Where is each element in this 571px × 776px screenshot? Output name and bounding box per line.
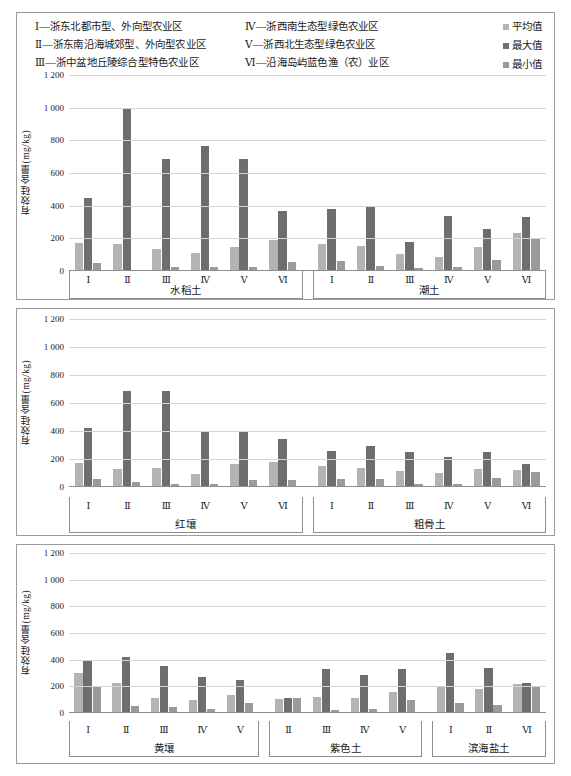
x-tick-label: Ⅵ bbox=[278, 500, 288, 511]
bar bbox=[191, 474, 199, 487]
bar bbox=[230, 464, 238, 487]
category-legend-item: Ⅵ—沿海岛屿蓝色渔（农）业区 bbox=[245, 55, 425, 71]
x-tick-label: Ⅰ bbox=[330, 500, 334, 511]
bar bbox=[269, 240, 277, 271]
bar bbox=[123, 108, 131, 271]
x-tick-label: Ⅲ bbox=[322, 724, 331, 735]
bar bbox=[84, 428, 92, 487]
x-tick-label: Ⅴ bbox=[241, 274, 248, 285]
y-tick-label: 0 bbox=[60, 708, 65, 718]
y-tick-label: 400 bbox=[51, 426, 65, 436]
y-tick-label: 200 bbox=[51, 681, 65, 691]
plot-canvas bbox=[69, 553, 546, 713]
bar bbox=[239, 159, 247, 271]
x-axis-band-2: ⅠⅡⅢⅣⅤⅥ红壤ⅠⅡⅢⅣⅤⅥ粗骨土 bbox=[69, 497, 546, 533]
gridline bbox=[69, 173, 546, 174]
x-tick-label: Ⅱ bbox=[486, 724, 492, 735]
gridline bbox=[69, 375, 546, 376]
bar bbox=[531, 239, 539, 271]
gridline bbox=[69, 238, 546, 239]
bar bbox=[484, 668, 492, 713]
plot-canvas bbox=[69, 319, 546, 487]
bar bbox=[444, 216, 452, 271]
category-legend-item: Ⅰ—浙东北都市型、外向型农业区 bbox=[35, 19, 239, 35]
bar bbox=[284, 698, 292, 713]
bar bbox=[198, 677, 206, 713]
x-tick-label: Ⅱ bbox=[368, 274, 374, 285]
category-legend-column-1: Ⅰ—浙东北都市型、外向型农业区 Ⅱ—浙东南沿海城郊型、外向型农业区 Ⅲ—浙中盆地… bbox=[35, 19, 239, 71]
bar bbox=[293, 698, 301, 713]
bar bbox=[93, 687, 101, 713]
bar bbox=[327, 209, 335, 271]
x-tick-label: Ⅵ bbox=[522, 500, 532, 511]
gridline bbox=[69, 633, 546, 634]
plot-area-2: 有效硅含量(mg/kg) 02004006008001 0001 200 bbox=[17, 319, 554, 487]
bar bbox=[201, 146, 209, 271]
gridline bbox=[69, 606, 546, 607]
bar bbox=[435, 257, 443, 271]
x-tick-label: Ⅲ bbox=[405, 274, 414, 285]
bar bbox=[396, 471, 404, 487]
gridline bbox=[69, 580, 546, 581]
y-tick-label: 600 bbox=[51, 628, 65, 638]
gridline bbox=[69, 108, 546, 109]
y-tick-label: 800 bbox=[51, 370, 65, 380]
soil-group-label: 水稻土 bbox=[170, 282, 202, 297]
x-tick-label: Ⅳ bbox=[198, 724, 208, 735]
x-tick-label: Ⅲ bbox=[160, 724, 169, 735]
chart-panel-1: Ⅰ—浙东北都市型、外向型农业区 Ⅱ—浙东南沿海城郊型、外向型农业区 Ⅲ—浙中盆地… bbox=[16, 12, 555, 300]
bar bbox=[162, 391, 170, 487]
x-axis-band-3: ⅠⅡⅢⅣⅤ黄壤ⅡⅢⅣⅤ紫色土ⅠⅡⅥ滨海盐土 bbox=[69, 721, 546, 757]
series-legend: 平均值 最大值 最小值 bbox=[503, 19, 542, 72]
x-tick-label: Ⅰ bbox=[87, 274, 91, 285]
bar bbox=[122, 657, 130, 713]
plot-canvas bbox=[69, 75, 546, 271]
bar bbox=[474, 469, 482, 487]
y-tick-label: 1 000 bbox=[44, 103, 64, 113]
x-tick-label: Ⅵ bbox=[278, 274, 288, 285]
x-axis-band-1: ⅠⅡⅢⅣⅤⅥ水稻土ⅠⅡⅢⅣⅤⅥ潮土 bbox=[69, 271, 546, 299]
x-tick-label: Ⅱ bbox=[123, 724, 129, 735]
legend-header: Ⅰ—浙东北都市型、外向型农业区 Ⅱ—浙东南沿海城郊型、外向型农业区 Ⅲ—浙中盆地… bbox=[17, 13, 554, 75]
bar bbox=[113, 469, 121, 487]
y-tick-label: 200 bbox=[51, 454, 65, 464]
bar bbox=[407, 700, 415, 713]
x-tick-label: Ⅵ bbox=[522, 274, 532, 285]
soil-group-label: 紫色土 bbox=[330, 740, 362, 755]
y-axis-label: 有效硅含量(mg/kg) bbox=[19, 75, 33, 271]
category-legend-item: Ⅳ—浙西南生态型绿色农业区 bbox=[245, 19, 425, 35]
y-tick-label: 1 000 bbox=[44, 342, 64, 352]
soil-group-label: 潮土 bbox=[419, 282, 440, 297]
gridline bbox=[69, 206, 546, 207]
bar bbox=[531, 472, 539, 487]
x-axis-baseline bbox=[69, 486, 546, 487]
bar bbox=[278, 439, 286, 487]
bar bbox=[318, 244, 326, 271]
x-tick-label: Ⅲ bbox=[405, 500, 414, 511]
x-tick-label: Ⅳ bbox=[444, 274, 454, 285]
soil-group-label: 黄壤 bbox=[154, 740, 175, 755]
bar bbox=[227, 695, 235, 713]
bar bbox=[191, 253, 199, 271]
bar bbox=[475, 689, 483, 713]
bar bbox=[278, 211, 286, 271]
chart-panel-2: 有效硅含量(mg/kg) 02004006008001 0001 200 ⅠⅡⅢ… bbox=[16, 308, 555, 536]
bar bbox=[230, 247, 238, 271]
series-legend-label: 最大值 bbox=[512, 38, 542, 53]
y-tick-label: 1 000 bbox=[44, 575, 64, 585]
y-tick-label: 1 200 bbox=[44, 70, 64, 80]
plot-area-1: 有效硅含量(mg/kg) 02004006008001 0001 200 bbox=[17, 75, 554, 271]
x-tick-label: Ⅲ bbox=[162, 500, 171, 511]
gridline bbox=[69, 660, 546, 661]
bar bbox=[396, 254, 404, 271]
gridline bbox=[69, 431, 546, 432]
bar bbox=[313, 697, 321, 713]
bar bbox=[123, 391, 131, 487]
x-tick-label: Ⅳ bbox=[200, 274, 210, 285]
soil-group-label: 滨海盐土 bbox=[468, 740, 510, 755]
bar bbox=[474, 247, 482, 271]
bar bbox=[84, 198, 92, 271]
bar bbox=[366, 446, 374, 487]
soil-group-label: 粗骨土 bbox=[414, 516, 446, 531]
soil-group-label: 红壤 bbox=[175, 516, 196, 531]
